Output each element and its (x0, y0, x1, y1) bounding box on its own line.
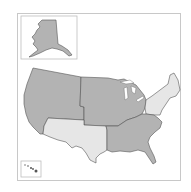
region-northeast[interactable] (145, 73, 180, 115)
hawaii-inset (21, 161, 41, 177)
alaska-inset (21, 16, 77, 59)
us-map (0, 0, 191, 192)
